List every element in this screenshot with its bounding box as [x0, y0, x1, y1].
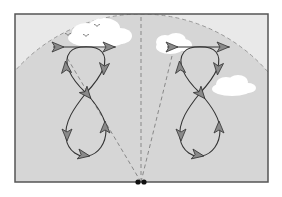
figure-eight-diagram: [0, 0, 282, 197]
diagram-canvas: [0, 0, 282, 197]
